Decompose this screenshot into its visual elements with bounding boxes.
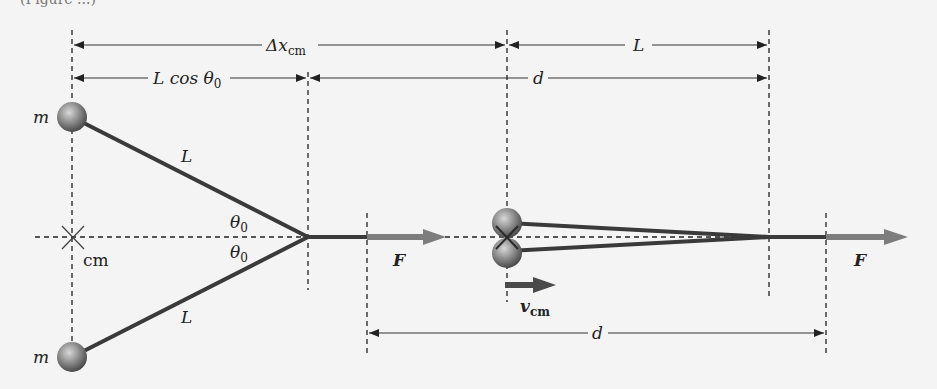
force-arrow-final bbox=[826, 229, 908, 245]
physics-diagram: (Figure ...) Δxcm L L cos θ0 d d bbox=[0, 0, 937, 389]
final-configuration: vcm F bbox=[492, 208, 908, 319]
rod-top-final bbox=[507, 223, 769, 237]
rod-top bbox=[72, 117, 308, 237]
svg-text:L: L bbox=[632, 35, 644, 55]
mass-top-final bbox=[492, 208, 522, 238]
dimension-L-top: L bbox=[509, 35, 767, 55]
svg-text:vcm: vcm bbox=[520, 296, 550, 319]
initial-configuration: m m L L θ0 θ0 cm F bbox=[33, 102, 446, 372]
dimension-l-cos-theta: L cos θ0 bbox=[74, 68, 306, 91]
svg-text:cm: cm bbox=[83, 250, 109, 270]
dimension-d-top: d bbox=[310, 68, 767, 88]
angle-label-top: θ0 bbox=[230, 212, 248, 235]
dimension-d-bottom: d bbox=[369, 323, 824, 343]
velocity-arrow bbox=[505, 277, 556, 293]
dimension-delta-x-cm: Δxcm bbox=[74, 35, 505, 58]
svg-text:L cos θ0: L cos θ0 bbox=[152, 68, 221, 91]
svg-text:d: d bbox=[592, 323, 603, 343]
svg-text:m: m bbox=[33, 107, 49, 127]
svg-text:L: L bbox=[180, 307, 192, 327]
partial-caption: (Figure ...) bbox=[20, 0, 96, 7]
svg-text:Δxcm: Δxcm bbox=[265, 35, 307, 58]
angle-label-bottom: θ0 bbox=[230, 242, 248, 265]
mass-bottom-final bbox=[492, 238, 522, 268]
force-arrow-initial bbox=[367, 229, 446, 245]
svg-text:m: m bbox=[33, 347, 49, 367]
rod-bottom-final bbox=[507, 237, 769, 251]
svg-text:F: F bbox=[853, 250, 868, 270]
svg-text:F: F bbox=[392, 250, 407, 270]
svg-text:L: L bbox=[180, 146, 192, 166]
svg-text:d: d bbox=[533, 68, 544, 88]
mass-bottom bbox=[57, 342, 87, 372]
mass-top bbox=[57, 102, 87, 132]
